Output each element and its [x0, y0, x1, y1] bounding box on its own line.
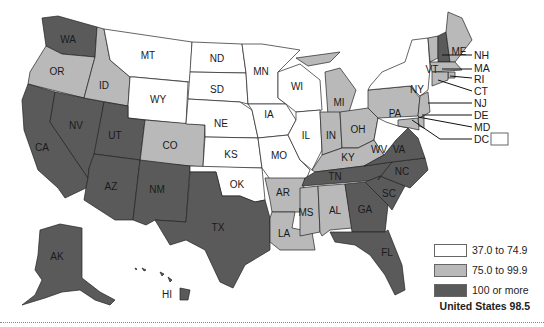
label-LA: LA [278, 228, 291, 239]
label-ND: ND [210, 53, 224, 64]
label-OK: OK [230, 179, 245, 190]
label-WA: WA [60, 34, 76, 45]
label-TN: TN [328, 171, 341, 182]
label-KS: KS [224, 149, 238, 160]
label-IN: IN [326, 130, 336, 141]
bottom-divider [0, 322, 544, 323]
dc-swatch [491, 133, 508, 145]
label-NV: NV [69, 120, 83, 131]
label-MO: MO [271, 150, 287, 161]
legend-swatch-high [434, 284, 467, 297]
label-UT: UT [108, 130, 121, 141]
state-FL [330, 230, 405, 295]
label-AR: AR [276, 187, 290, 198]
callout-RI: RI [474, 73, 485, 85]
leader-MD [418, 117, 472, 127]
label-IL: IL [302, 130, 311, 141]
legend-swatch-low [434, 244, 467, 257]
label-NC: NC [395, 166, 409, 177]
label-OR: OR [50, 66, 65, 77]
label-NM: NM [149, 184, 165, 195]
state-RI [448, 72, 455, 78]
legend-swatch-mid [434, 264, 467, 277]
legend: 37.0 to 74.9 75.0 to 99.9 100 or more [434, 240, 544, 300]
label-SC: SC [382, 188, 396, 199]
state-VT [428, 36, 438, 62]
label-WI: WI [291, 81, 303, 92]
label-SD: SD [210, 84, 224, 95]
state-AK [22, 224, 115, 305]
label-WV: WV [371, 144, 387, 155]
label-TX: TX [212, 222, 225, 233]
legend-label-mid: 75.0 to 99.9 [472, 264, 527, 276]
callout-CT: CT [474, 85, 489, 97]
label-MS: MS [299, 207, 314, 218]
legend-item-low: 37.0 to 74.9 [434, 240, 544, 260]
label-WY: WY [150, 94, 166, 105]
callout-DE: DE [474, 109, 489, 121]
label-MN: MN [253, 66, 269, 77]
label-KY: KY [341, 152, 355, 163]
callout-DC: DC [474, 133, 490, 145]
label-HI: HI [162, 289, 172, 300]
callout-NH: NH [474, 49, 489, 61]
label-VA: VA [393, 144, 406, 155]
label-FL: FL [381, 247, 393, 258]
label-OH: OH [351, 124, 366, 135]
label-AZ: AZ [105, 181, 118, 192]
national-total: United States 98.5 [440, 300, 530, 312]
label-NE: NE [214, 118, 228, 129]
label-ID: ID [99, 80, 109, 91]
label-MT: MT [141, 50, 155, 61]
callout-MD: MD [474, 121, 491, 133]
label-CA: CA [35, 142, 49, 153]
state-NJ [418, 92, 430, 118]
legend-item-mid: 75.0 to 99.9 [434, 260, 544, 280]
label-MI: MI [333, 97, 344, 108]
callout-NJ: NJ [474, 97, 487, 109]
label-CO: CO [163, 140, 178, 151]
legend-item-high: 100 or more [434, 280, 544, 300]
label-IA: IA [264, 109, 274, 120]
label-AK: AK [50, 251, 64, 262]
legend-label-low: 37.0 to 74.9 [472, 244, 527, 256]
legend-label-high: 100 or more [472, 284, 529, 296]
label-NY: NY [410, 84, 424, 95]
label-GA: GA [358, 204, 373, 215]
label-VT: VT [426, 64, 439, 75]
leader-CT [438, 80, 472, 91]
label-PA: PA [389, 108, 402, 119]
label-AL: AL [329, 205, 342, 216]
